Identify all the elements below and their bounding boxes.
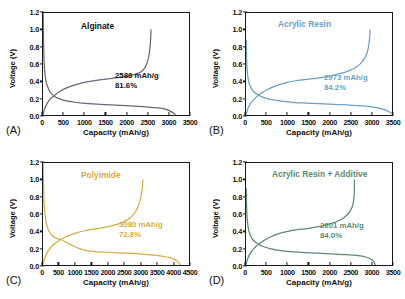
x-tick-mark bbox=[266, 262, 267, 266]
x-tick-label: 1500 bbox=[98, 119, 113, 127]
y-tick-label: 0.0 bbox=[29, 262, 39, 271]
x-tick-label: 3000 bbox=[365, 269, 380, 277]
y-axis-ticks-B: 0.00.20.40.60.81.01.2 bbox=[217, 12, 243, 116]
x-tick-label: 500 bbox=[58, 119, 69, 127]
x-tick-mark bbox=[244, 262, 245, 266]
x-tick-label: 1000 bbox=[280, 119, 295, 127]
annotation-D: 2601 mAh/g 84.0% bbox=[320, 221, 364, 240]
plot-area-D: Acrylic Resin + Additive 2601 mAh/g 84.0… bbox=[245, 162, 393, 266]
x-tick-mark bbox=[287, 262, 288, 266]
x-tick-label: 3000 bbox=[365, 119, 380, 127]
x-tick-label: 0 bbox=[40, 119, 44, 127]
x-axis-title-A: Capacity (mAh/g) bbox=[42, 128, 190, 137]
y-tick-label: 0.4 bbox=[29, 227, 39, 236]
y-tick-label: 1.2 bbox=[232, 158, 242, 167]
annotation-B: 2973 mAh/g 84.2% bbox=[324, 73, 368, 92]
x-tick-mark bbox=[41, 262, 42, 266]
efficiency-value-A: 81.6% bbox=[115, 81, 159, 91]
x-tick-mark bbox=[58, 262, 59, 266]
x-tick-label: 4500 bbox=[183, 269, 198, 277]
x-tick-mark bbox=[126, 112, 127, 116]
panel-letter-C: (C) bbox=[6, 274, 21, 286]
plot-area-A: Alginate 2588 mAh/g 81.6% bbox=[42, 12, 190, 116]
x-tick-label: 2000 bbox=[119, 119, 134, 127]
x-tick-label: 2500 bbox=[140, 119, 155, 127]
x-tick-label: 3000 bbox=[133, 269, 148, 277]
x-tick-label: 2000 bbox=[100, 269, 115, 277]
y-tick-label: 0.6 bbox=[232, 60, 242, 69]
curves-A bbox=[43, 13, 189, 115]
x-tick-mark bbox=[84, 112, 85, 116]
x-tick-label: 2500 bbox=[117, 269, 132, 277]
x-tick-label: 500 bbox=[53, 269, 64, 277]
y-tick-label: 1.2 bbox=[232, 8, 242, 17]
x-tick-mark bbox=[105, 112, 106, 116]
y-tick-label: 1.0 bbox=[29, 25, 39, 34]
annotation-A: 2588 mAh/g 81.6% bbox=[115, 71, 159, 90]
panel-C: Voltage (V) 0.00.20.40.60.81.01.2 Polyim… bbox=[0, 150, 202, 299]
x-tick-mark bbox=[63, 112, 64, 116]
x-tick-label: 1000 bbox=[280, 269, 295, 277]
x-tick-mark bbox=[189, 112, 190, 116]
plot-area-B: Acrylic Resin 2973 mAh/g 84.2% bbox=[245, 12, 393, 116]
y-tick-label: 0.2 bbox=[232, 244, 242, 253]
x-tick-label: 2000 bbox=[322, 269, 337, 277]
x-axis-title-C: Capacity (mAh/g) bbox=[42, 278, 190, 287]
panel-letter-A: (A) bbox=[6, 124, 21, 136]
voltage-profile-figure: Voltage (V) 0.00.20.40.60.81.01.2 Algina… bbox=[0, 0, 405, 299]
panel-letter-D: (D) bbox=[209, 274, 224, 286]
x-tick-mark bbox=[107, 262, 108, 266]
x-tick-mark bbox=[350, 262, 351, 266]
x-tick-mark bbox=[168, 112, 169, 116]
panel-letter-B: (B) bbox=[209, 124, 224, 136]
y-tick-label: 0.6 bbox=[232, 210, 242, 219]
x-tick-mark bbox=[392, 112, 393, 116]
y-axis-ticks-C: 0.00.20.40.60.81.01.2 bbox=[14, 162, 40, 266]
y-tick-label: 1.0 bbox=[232, 175, 242, 184]
x-tick-mark bbox=[91, 262, 92, 266]
x-tick-mark bbox=[350, 112, 351, 116]
x-tick-mark bbox=[266, 112, 267, 116]
x-tick-label: 1500 bbox=[301, 119, 316, 127]
y-tick-label: 0.0 bbox=[232, 262, 242, 271]
y-tick-label: 0.0 bbox=[29, 112, 39, 121]
x-tick-label: 2500 bbox=[343, 269, 358, 277]
y-tick-label: 0.6 bbox=[29, 210, 39, 219]
x-tick-label: 1000 bbox=[77, 119, 92, 127]
x-tick-label: 3500 bbox=[386, 269, 401, 277]
y-tick-label: 1.2 bbox=[29, 8, 39, 17]
x-tick-mark bbox=[392, 262, 393, 266]
x-tick-mark bbox=[41, 112, 42, 116]
x-tick-mark bbox=[140, 262, 141, 266]
x-axis-title-B: Capacity (mAh/g) bbox=[245, 128, 393, 137]
y-axis-ticks-D: 0.00.20.40.60.81.01.2 bbox=[217, 162, 243, 266]
y-tick-label: 0.8 bbox=[29, 192, 39, 201]
x-tick-label: 3000 bbox=[162, 119, 177, 127]
x-tick-mark bbox=[124, 262, 125, 266]
x-tick-label: 2000 bbox=[322, 119, 337, 127]
x-tick-label: 500 bbox=[261, 119, 272, 127]
y-tick-label: 0.4 bbox=[232, 227, 242, 236]
efficiency-value-C: 72.8% bbox=[119, 230, 163, 240]
x-tick-label: 0 bbox=[243, 119, 247, 127]
annotation-C: 3080 mAh/g 72.8% bbox=[119, 220, 163, 239]
capacity-value-D: 2601 mAh/g bbox=[320, 221, 364, 231]
x-tick-mark bbox=[329, 262, 330, 266]
y-tick-label: 0.8 bbox=[232, 192, 242, 201]
x-tick-mark bbox=[308, 112, 309, 116]
capacity-value-B: 2973 mAh/g bbox=[324, 73, 368, 83]
x-tick-mark bbox=[287, 112, 288, 116]
y-tick-label: 0.4 bbox=[29, 77, 39, 86]
x-tick-mark bbox=[74, 262, 75, 266]
y-axis-ticks-A: 0.00.20.40.60.81.01.2 bbox=[14, 12, 40, 116]
panel-D: Voltage (V) 0.00.20.40.60.81.01.2 Acryli… bbox=[203, 150, 405, 299]
y-tick-label: 0.8 bbox=[232, 42, 242, 51]
y-tick-label: 1.0 bbox=[29, 175, 39, 184]
y-tick-label: 0.2 bbox=[232, 94, 242, 103]
y-tick-label: 0.6 bbox=[29, 60, 39, 69]
x-tick-label: 1500 bbox=[301, 269, 316, 277]
x-tick-label: 0 bbox=[243, 269, 247, 277]
capacity-value-A: 2588 mAh/g bbox=[115, 71, 159, 81]
x-tick-label: 0 bbox=[40, 269, 44, 277]
y-tick-label: 0.8 bbox=[29, 42, 39, 51]
